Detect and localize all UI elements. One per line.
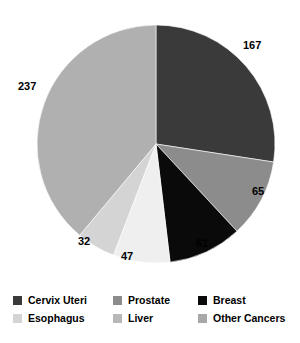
- legend-item[interactable]: Other Cancers: [198, 313, 293, 324]
- chart-legend: Cervix UteriProstateBreastEsophagusLiver…: [13, 291, 293, 327]
- legend-item[interactable]: Liver: [113, 313, 198, 324]
- pie-chart-figure: 16765614732237 Cervix UteriProstateBreas…: [0, 0, 300, 343]
- legend-item-label: Esophagus: [28, 313, 85, 324]
- legend-item[interactable]: Breast: [198, 295, 293, 306]
- legend-swatch-icon: [13, 296, 22, 305]
- pie-value-label: 32: [78, 236, 90, 247]
- pie-value-label: 237: [18, 81, 36, 92]
- pie-plot-area: 16765614732237: [0, 0, 300, 285]
- legend-item-label: Prostate: [128, 295, 170, 306]
- legend-swatch-icon: [198, 296, 207, 305]
- legend-item-label: Other Cancers: [213, 313, 285, 324]
- legend-item-label: Breast: [213, 295, 246, 306]
- legend-item[interactable]: Prostate: [113, 295, 198, 306]
- legend-item[interactable]: Esophagus: [13, 313, 113, 324]
- pie-value-label: 47: [121, 251, 133, 262]
- pie-value-label: 65: [252, 186, 264, 197]
- legend-item-label: Liver: [128, 313, 153, 324]
- pie-value-label: 61: [196, 238, 208, 249]
- legend-swatch-icon: [113, 296, 122, 305]
- legend-swatch-icon: [198, 314, 207, 323]
- pie-value-label: 167: [243, 40, 261, 51]
- pie-slice-group: [37, 25, 275, 263]
- legend-item[interactable]: Cervix Uteri: [13, 295, 113, 306]
- legend-item-label: Cervix Uteri: [28, 295, 87, 306]
- legend-swatch-icon: [13, 314, 22, 323]
- legend-swatch-icon: [113, 314, 122, 323]
